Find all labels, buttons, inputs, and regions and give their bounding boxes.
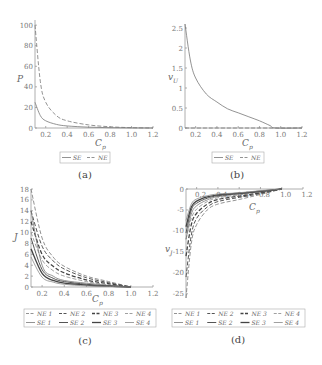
legend-entry: SE xyxy=(225,154,234,161)
y-tick-label: 2 xyxy=(25,273,29,281)
legend-entry: NE 2 xyxy=(217,310,234,317)
legend: SENE xyxy=(60,152,110,163)
legend-entry: NE xyxy=(250,154,261,161)
y-tick-label: 0.5 xyxy=(172,105,183,113)
legend-entry: SE 4 xyxy=(285,319,299,326)
y-tick-label: 4 xyxy=(25,262,30,270)
x-tick-label: 0.4 xyxy=(59,290,71,298)
chart-panel-b: 0.20.40.60.81.01.200.511.522.5CpvUSENE(b… xyxy=(168,24,308,180)
x-tick-label: 1.0 xyxy=(280,191,291,199)
y-tick-label: -10 xyxy=(173,227,184,235)
y-axis-label: vU xyxy=(168,72,179,84)
y-tick-label: 8 xyxy=(25,240,29,248)
x-axis-label: Cp xyxy=(95,138,106,151)
legend-entry: NE 4 xyxy=(284,310,301,317)
y-tick-label: -25 xyxy=(173,290,184,298)
x-tick-label: 0.8 xyxy=(254,131,265,139)
panel-caption: (d) xyxy=(231,334,245,345)
y-tick-label: -15 xyxy=(173,248,184,256)
y-tick-label: 6 xyxy=(25,251,30,259)
y-axis-label: P xyxy=(16,74,24,84)
x-tick-label: 1.2 xyxy=(296,131,307,139)
legend-entry: NE 3 xyxy=(251,310,268,317)
y-tick-label: 14 xyxy=(20,207,29,215)
x-axis-label: Cp xyxy=(249,202,260,215)
chart-panel-d: 0.20.40.60.81.01.20-5-10-15-20-25CpvJNE … xyxy=(165,186,313,346)
y-tick-label: 40 xyxy=(24,83,33,91)
series-ne xyxy=(35,25,153,128)
series-se-3 xyxy=(31,249,131,287)
panel-caption: (c) xyxy=(78,335,92,346)
y-axis-label: vJ xyxy=(165,244,173,257)
y-tick-label: 0 xyxy=(179,125,183,133)
y-axis-label: J xyxy=(12,232,19,242)
legend-entry: NE 1 xyxy=(36,310,52,317)
x-tick-label: 1.2 xyxy=(147,131,158,139)
series-ne-2 xyxy=(186,189,282,277)
legend-entry: SE 2 xyxy=(218,319,232,326)
chart-panel-c: 0.20.40.60.81.01.2024681012141618CpJNE 1… xyxy=(12,186,159,347)
panel-caption: (b) xyxy=(230,169,244,180)
x-tick-label: 1.0 xyxy=(126,131,137,139)
x-tick-label: 0.4 xyxy=(211,131,223,139)
panel-caption: (a) xyxy=(78,169,92,180)
y-tick-label: 16 xyxy=(20,196,29,204)
legend-entry: NE xyxy=(97,154,108,161)
legend-entry: SE 4 xyxy=(136,319,150,326)
y-tick-label: 0 xyxy=(29,125,33,133)
legend-entry: NE 3 xyxy=(102,310,119,317)
series-se xyxy=(185,24,302,128)
legend: NE 1NE 2NE 3NE 4SE 1SE 2SE 3SE 4 xyxy=(172,309,305,327)
legend-entry: SE xyxy=(73,154,82,161)
x-tick-label: 1.2 xyxy=(301,191,312,199)
x-tick-label: 0.4 xyxy=(62,131,74,139)
series-ne-2 xyxy=(31,211,131,287)
y-tick-label: 60 xyxy=(24,63,33,71)
x-tick-label: 0.8 xyxy=(105,131,116,139)
x-tick-label: 1.0 xyxy=(125,290,136,298)
legend-entry: SE 2 xyxy=(70,319,84,326)
x-tick-label: 0.2 xyxy=(37,290,48,298)
legend: SENE xyxy=(212,152,264,163)
legend-entry: NE 1 xyxy=(184,310,200,317)
legend-entry: SE 3 xyxy=(252,319,266,326)
y-tick-label: 2 xyxy=(179,45,183,53)
legend-entry: SE 3 xyxy=(103,319,117,326)
series-se xyxy=(35,102,153,128)
x-axis-label: Cp xyxy=(242,138,253,151)
x-tick-label: 1.2 xyxy=(147,290,158,298)
y-tick-label: 1.5 xyxy=(172,65,183,73)
y-tick-label: 18 xyxy=(20,186,29,194)
legend-entry: NE 4 xyxy=(135,310,152,317)
x-tick-label: 0.6 xyxy=(81,290,93,298)
y-tick-label: -5 xyxy=(177,206,184,214)
chart-panel-a: 0.20.40.60.81.01.2020406080100CpPSENE(a) xyxy=(16,20,159,180)
legend-entry: SE 1 xyxy=(185,319,199,326)
legend: NE 1NE 2NE 3NE 4SE 1SE 2SE 3SE 4 xyxy=(24,309,156,327)
y-tick-label: 10 xyxy=(20,229,29,237)
y-tick-label: 0 xyxy=(180,186,184,194)
y-tick-label: 100 xyxy=(20,22,33,30)
x-axis-label: Cp xyxy=(92,294,103,307)
x-tick-label: 1.0 xyxy=(275,131,286,139)
y-tick-label: 1 xyxy=(179,85,183,93)
y-tick-label: 12 xyxy=(20,218,29,226)
y-tick-label: 20 xyxy=(24,104,33,112)
x-tick-label: 0.2 xyxy=(190,131,201,139)
series-ne-1 xyxy=(186,189,282,298)
y-tick-label: 2.5 xyxy=(172,25,183,33)
x-tick-label: 0.8 xyxy=(103,290,114,298)
y-tick-label: 80 xyxy=(24,42,33,50)
x-tick-label: 0.6 xyxy=(83,131,95,139)
y-tick-label: 0 xyxy=(25,284,29,292)
x-tick-label: 0.2 xyxy=(40,131,51,139)
y-tick-label: -20 xyxy=(173,269,184,277)
figure: 0.20.40.60.81.01.2020406080100CpPSENE(a)… xyxy=(0,0,322,365)
legend-entry: SE 1 xyxy=(37,319,51,326)
legend-entry: NE 2 xyxy=(69,310,86,317)
